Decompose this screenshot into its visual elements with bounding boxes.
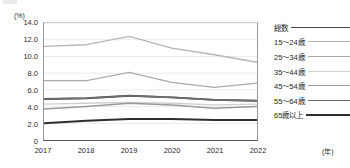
legend-item[interactable]: 25～34歳	[274, 49, 350, 64]
x-axis-unit-label: (年)	[322, 146, 334, 156]
legend-item-label: 65歳以上	[274, 109, 303, 120]
legend-item-label: 35～44歳	[274, 66, 305, 77]
legend-color-swatch	[308, 41, 350, 42]
legend-item-label: 45～54歳	[274, 80, 305, 91]
x-axis-tick: 2022	[243, 146, 273, 155]
plot-area	[43, 22, 258, 141]
legend-item[interactable]: 35～44歳	[274, 64, 350, 79]
y-axis-tick: 14.0	[8, 18, 38, 27]
legend-item-label: 15～24歳	[274, 36, 305, 47]
x-axis-tick: 2020	[157, 146, 187, 155]
legend-item-label: 25～34歳	[274, 51, 305, 62]
legend-item[interactable]: 45～54歳	[274, 78, 350, 93]
y-axis-tick: 6.0	[8, 86, 38, 95]
legend-color-swatch	[308, 71, 350, 72]
x-axis-tick: 2017	[28, 146, 58, 155]
y-axis-tick: 2.0	[8, 120, 38, 129]
series-line	[44, 96, 257, 101]
y-axis-tick: 8.0	[8, 69, 38, 78]
x-axis-tick: 2021	[200, 146, 230, 155]
line-chart: (%) 02.04.06.08.010.012.014.0 2017201820…	[0, 0, 350, 168]
legend-item[interactable]: 55～64歳	[274, 93, 350, 108]
y-axis-tick: 4.0	[8, 103, 38, 112]
legend-item[interactable]: 総数	[274, 20, 350, 35]
x-axis-tick: 2019	[114, 146, 144, 155]
chart-legend: 総数15～24歳25～34歳35～44歳45～54歳55～64歳65歳以上	[274, 20, 350, 122]
series-line	[44, 36, 257, 62]
legend-item-label: 総数	[274, 22, 288, 33]
legend-color-swatch	[306, 114, 350, 116]
x-axis-tick: 2018	[71, 146, 101, 155]
legend-item[interactable]: 65歳以上	[274, 108, 350, 123]
series-line	[44, 119, 257, 123]
series-line	[44, 72, 257, 87]
y-axis-tick: 0	[8, 137, 38, 146]
legend-color-swatch	[308, 100, 350, 101]
y-axis-tick: 10.0	[8, 52, 38, 61]
y-axis-tick-labels: 02.04.06.08.010.012.014.0	[4, 0, 38, 168]
legend-item[interactable]: 15～24歳	[274, 35, 350, 50]
legend-color-swatch	[308, 56, 350, 57]
legend-item-label: 55～64歳	[274, 95, 305, 106]
legend-color-swatch	[308, 85, 350, 86]
plot-lines	[44, 23, 257, 140]
y-axis-tick: 12.0	[8, 35, 38, 44]
legend-color-swatch	[291, 27, 350, 28]
